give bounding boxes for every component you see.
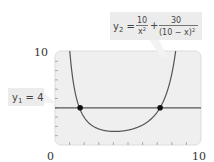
y1-label-rest: = 4 xyxy=(22,92,43,103)
y2-frac1-num: 10 xyxy=(137,16,147,25)
x-min-label: 0 xyxy=(47,150,54,162)
y2-frac2-num: 30 xyxy=(171,16,181,25)
y2-frac2-den: (10 − x) xyxy=(159,28,192,37)
y-max-label: 10 xyxy=(34,46,48,59)
chart: 10 0 10 y2 = 10 x2 + 30 (10 − x)2 y1 = 4 xyxy=(0,0,214,162)
svg-text:(10 − x)2: (10 − x)2 xyxy=(159,27,195,37)
intersection-point xyxy=(157,105,163,111)
y2-frac1-den-exp: 2 xyxy=(143,26,146,32)
y1-callout: y1 = 4 xyxy=(8,88,56,106)
y2-label-eq: = xyxy=(123,21,135,32)
intersection-point xyxy=(77,105,83,111)
y2-plus: + xyxy=(150,20,158,31)
y2-frac2-den-exp: 2 xyxy=(192,27,195,33)
x-max-label: 10 xyxy=(192,150,206,162)
